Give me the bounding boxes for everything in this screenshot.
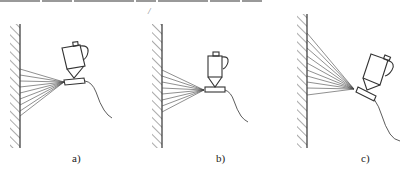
spray-fan	[307, 33, 354, 95]
caption-c: c)	[361, 152, 370, 164]
spray-fan	[20, 69, 64, 116]
spray-diagram	[0, 0, 406, 174]
wall-hatch	[152, 24, 162, 148]
subfigure-a	[10, 24, 112, 148]
wall-hatch	[10, 24, 20, 148]
subfigure-c	[297, 14, 400, 148]
wall-hatch	[297, 14, 307, 148]
spray-gun	[356, 54, 400, 141]
caption-b: b)	[216, 152, 225, 164]
caption-a: a)	[72, 152, 81, 164]
spray-gun	[62, 42, 112, 118]
spray-gun	[205, 52, 248, 122]
subfigure-b	[152, 24, 248, 148]
spray-fan	[162, 70, 204, 112]
